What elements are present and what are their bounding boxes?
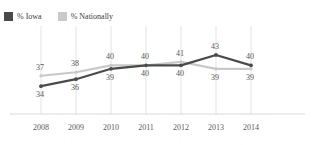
legend-label-nationally: % Nationally [71,12,113,21]
plot-svg: 37384040413939 34363940404340 [0,22,317,122]
x-axis-tick-2014: 2014 [231,123,271,132]
chart-title-clipped [0,0,317,2]
data-label: 40 [106,52,114,61]
data-label: 36 [71,83,79,92]
legend-item-iowa[interactable]: % Iowa [4,12,42,21]
data-label: 39 [211,73,219,82]
x-axis-labels: 2008200920102011201220132014 [0,123,317,139]
data-label: 39 [106,73,114,82]
data-labels-iowa: 34363940404340 [36,42,254,99]
data-label: 38 [71,59,79,68]
square-swatch-icon [58,12,67,21]
data-label: 40 [246,52,254,61]
x-axis-tick-2012: 2012 [161,123,201,132]
chart-legend: % Iowa % Nationally [4,10,113,22]
data-label: 40 [141,52,149,61]
data-label: 39 [246,73,254,82]
data-label: 37 [36,63,44,72]
legend-label-iowa: % Iowa [17,12,42,21]
legend-item-nationally[interactable]: % Nationally [58,12,113,21]
data-label: 34 [36,90,44,99]
data-label: 40 [141,69,149,78]
data-label: 41 [176,49,184,58]
line-chart: % Iowa % Nationally 37384040413939 34363… [0,0,317,145]
x-axis-tick-2009: 2009 [56,123,96,132]
x-axis-tick-2013: 2013 [196,123,236,132]
x-axis-tick-2011: 2011 [126,123,166,132]
x-axis-tick-2010: 2010 [91,123,131,132]
square-swatch-icon [4,12,13,21]
data-label: 43 [211,42,219,51]
x-axis-tick-2008: 2008 [21,123,61,132]
data-label: 40 [176,69,184,78]
plot-area: 37384040413939 34363940404340 [0,22,317,122]
